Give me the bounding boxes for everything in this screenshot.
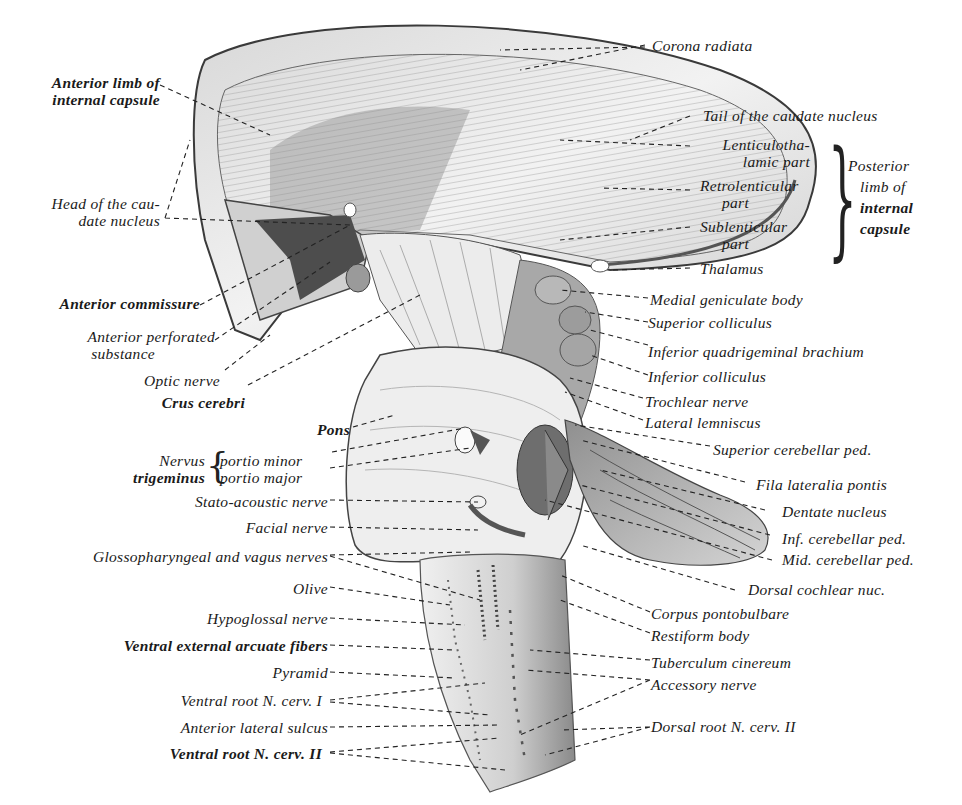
label-accessory-nerve: Accessory nerve: [651, 676, 757, 693]
label-pyramid: Pyramid: [150, 664, 328, 681]
label-optic-nerve: Optic nerve: [60, 372, 220, 389]
label-crus-cerebri: Crus cerebri: [60, 394, 245, 411]
label-sublenticular: Sublenticular part: [700, 218, 787, 252]
label-stato-acoustic: Stato-acoustic nerve: [100, 493, 328, 510]
label-dorsal-cochlear: Dorsal cochlear nuc.: [748, 581, 885, 598]
label-fila-lateralia: Fila lateralia pontis: [756, 476, 887, 493]
label-line: Lenticulotha-: [723, 136, 810, 153]
label-thalamus: Thalamus: [700, 260, 764, 277]
label-line: part: [700, 194, 749, 211]
label-line: limb of: [848, 178, 906, 195]
label-anterior-limb: Anterior limb of internal capsule: [8, 74, 160, 108]
anatomy-figure: Anterior limb of internal capsule Head o…: [0, 0, 962, 805]
label-posterior-limb: Posterior limb of internal capsule: [848, 155, 913, 239]
label-ventral-root-1: Ventral root N. cerv. I: [60, 692, 322, 709]
label-dentate: Dentate nucleus: [782, 503, 887, 520]
label-line: Posterior: [848, 157, 909, 174]
label-line: Anterior limb of: [52, 74, 160, 91]
label-facial-nerve: Facial nerve: [150, 519, 328, 536]
label-line: Anterior perforated: [87, 328, 215, 345]
label-olive: Olive: [150, 580, 328, 597]
label-inferior-quadrigeminal: Inferior quadrigeminal brachium: [648, 343, 864, 360]
label-corona-radiata: Corona radiata: [652, 37, 753, 54]
label-lenticulothalamic: Lenticulotha- lamic part: [695, 136, 810, 170]
label-line: internal capsule: [52, 91, 160, 108]
label-portio-major: portio major: [220, 469, 302, 486]
label-line: Nervus: [159, 452, 205, 469]
label-glossopharyngeal: Glossopharyngeal and vagus nerves: [10, 548, 328, 565]
label-nervus-trigeminus: Nervus trigeminus: [110, 452, 205, 486]
label-superior-cerebellar-ped: Superior cerebellar ped.: [713, 441, 872, 458]
label-corpus-pontobulbare: Corpus pontobulbare: [651, 605, 789, 622]
label-head-caudate: Head of the cau- date nucleus: [10, 195, 160, 229]
label-inf-cerebellar-ped: Inf. cerebellar ped.: [782, 530, 906, 547]
label-retrolenticular: Retrolenticular part: [700, 177, 799, 211]
label-line: Retrolenticular: [700, 177, 799, 194]
label-line: Head of the cau-: [51, 195, 160, 212]
label-line: lamic part: [743, 153, 810, 170]
label-anterior-lateral-sulcus: Anterior lateral sulcus: [60, 719, 328, 736]
label-inferior-colliculus: Inferior colliculus: [648, 368, 766, 385]
label-trochlear: Trochlear nerve: [645, 393, 748, 410]
label-line: internal: [848, 199, 913, 216]
label-pons: Pons: [250, 421, 350, 438]
label-tuberculum-cinereum: Tuberculum cinereum: [651, 654, 791, 671]
label-mid-cerebellar-ped: Mid. cerebellar ped.: [782, 551, 914, 568]
label-line: trigeminus: [133, 469, 205, 486]
label-line: capsule: [848, 220, 910, 237]
label-medial-geniculate: Medial geniculate body: [650, 291, 803, 308]
medulla-shape: [420, 554, 575, 792]
label-superior-colliculus: Superior colliculus: [648, 314, 772, 331]
label-dorsal-root-2: Dorsal root N. cerv. II: [651, 718, 796, 735]
label-lateral-lemniscus: Lateral lemniscus: [645, 414, 761, 431]
label-anterior-commissure: Anterior commissure: [0, 295, 200, 312]
label-ventral-arcuate: Ventral external arcuate fibers: [20, 637, 328, 654]
label-line: date nucleus: [78, 212, 160, 229]
label-ventral-root-2: Ventral root N. cerv. II: [40, 745, 322, 762]
label-restiform: Restiform body: [651, 627, 749, 644]
label-line: Sublenticular: [700, 218, 787, 235]
label-anterior-perforated: Anterior perforated substance: [10, 328, 215, 362]
label-hypoglossal: Hypoglossal nerve: [100, 610, 328, 627]
label-line: part: [700, 235, 749, 252]
label-line: substance: [91, 345, 155, 362]
label-portio-minor: portio minor: [220, 452, 302, 469]
